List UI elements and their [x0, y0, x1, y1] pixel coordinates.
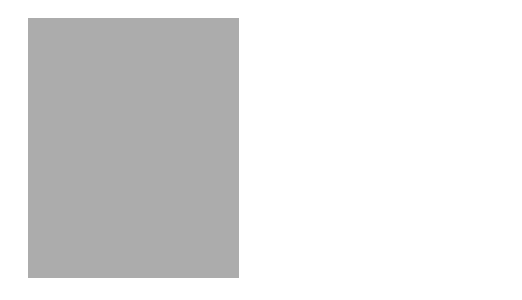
- map-graphic: [0, 0, 522, 300]
- federal-reserve-districts-map: [0, 0, 522, 300]
